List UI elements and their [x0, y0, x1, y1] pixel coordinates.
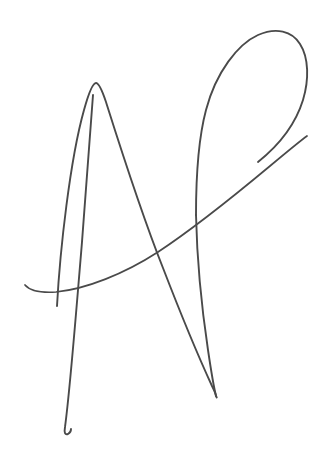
- signature-image: [0, 0, 322, 467]
- background-rect: [0, 0, 322, 467]
- signature-canvas: [0, 0, 322, 467]
